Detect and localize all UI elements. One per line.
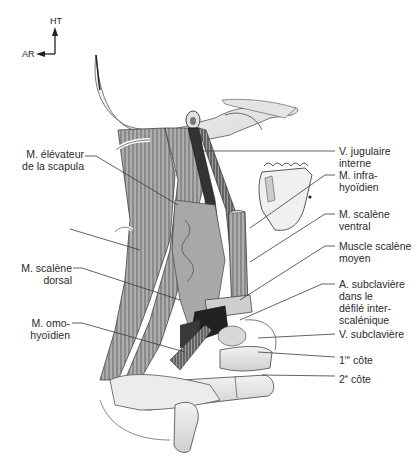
label-line: interne — [339, 157, 391, 169]
label-line: V. jugulaire — [339, 145, 391, 157]
label-a-subclaviere: A. subclavière dans le défilé inter- sca… — [339, 278, 405, 326]
label-1re-cote: 1re côte — [339, 351, 373, 366]
label-line: de la scapula — [14, 160, 84, 172]
label-line: dans le — [339, 290, 405, 302]
rib-text: côte — [348, 373, 371, 385]
label-line: M. élévateur — [14, 148, 84, 160]
label-muscle-scalene-moyen: Muscle scalène moyen — [339, 240, 411, 264]
label-line: dorsal — [14, 274, 72, 286]
label-line: M. omo- — [14, 317, 70, 329]
anatomy-illustration — [0, 0, 417, 467]
label-omohyoidien: M. omo- hyoïdien — [14, 317, 70, 341]
label-scalene-dorsal: M. scalène dorsal — [14, 262, 72, 286]
label-v-jugulaire-interne: V. jugulaire interne — [339, 145, 391, 169]
rib-text: côte — [350, 354, 373, 366]
label-line: défilé inter- — [339, 302, 405, 314]
label-v-subclaviere: V. subclavière — [339, 328, 404, 340]
label-line: hyoïdien — [14, 329, 70, 341]
label-line: M. scalène — [14, 262, 72, 274]
orientation-up-label: HT — [50, 16, 62, 26]
label-m-infrahyoidien: M. infra- hyoïdien — [339, 169, 379, 193]
label-line: M. infra- — [339, 169, 379, 181]
label-line: A. subclavière — [339, 278, 405, 290]
label-elevateur-scapula: M. élévateur de la scapula — [14, 148, 84, 172]
label-line: M. scalène — [339, 208, 390, 220]
label-2e-cote: 2e côte — [339, 370, 371, 385]
label-line: hyoïdien — [339, 181, 379, 193]
orientation-left-label: AR — [22, 49, 35, 59]
label-m-scalene-ventral: M. scalène ventral — [339, 208, 390, 232]
label-line: ventral — [339, 220, 390, 232]
label-line: scalénique — [339, 314, 405, 326]
label-line: Muscle scalène — [339, 240, 411, 252]
label-line: moyen — [339, 252, 411, 264]
orientation-arrows-icon — [36, 27, 58, 57]
label-line: V. subclavière — [339, 328, 404, 340]
